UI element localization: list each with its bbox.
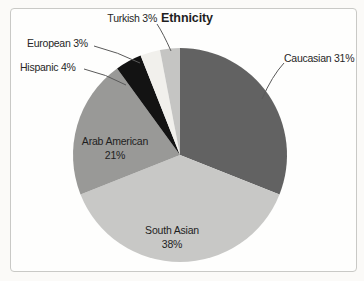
label-arab-american-value: 21%	[55, 148, 175, 162]
turkish-leader-line	[157, 24, 171, 51]
label-caucasian: Caucasian 31%	[284, 52, 354, 64]
label-arab-american: Arab American 21%	[55, 134, 175, 162]
label-turkish: Turkish 3%	[90, 12, 157, 24]
label-south-asian-value: 38%	[112, 237, 232, 251]
label-arab-american-name: Arab American	[55, 134, 175, 148]
chart-canvas: Ethnicity Turkish 3% European 3% Hispani…	[0, 0, 364, 281]
label-south-asian: South Asian 38%	[112, 223, 232, 251]
label-european: European 3%	[27, 37, 88, 49]
label-south-asian-name: South Asian	[112, 223, 232, 237]
label-hispanic: Hispanic 4%	[20, 61, 76, 73]
